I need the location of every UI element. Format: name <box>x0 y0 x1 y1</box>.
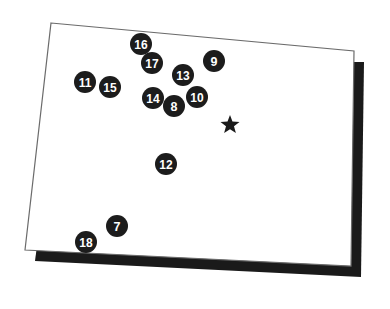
marker-13-label: 13 <box>176 69 190 83</box>
marker-18[interactable]: 18 <box>75 231 97 253</box>
marker-10-label: 10 <box>190 91 204 105</box>
marker-13[interactable]: 13 <box>172 64 194 86</box>
marker-7[interactable]: 7 <box>106 215 128 237</box>
marker-15[interactable]: 15 <box>99 76 121 98</box>
marker-14[interactable]: 14 <box>142 87 164 109</box>
marker-16[interactable]: 16 <box>130 33 152 55</box>
marker-11[interactable]: 11 <box>74 71 96 93</box>
marker-8[interactable]: 8 <box>163 95 185 117</box>
marker-11-label: 11 <box>79 76 92 90</box>
marker-15-label: 15 <box>103 81 117 95</box>
map-canvas: 169171311151410812718 <box>0 0 390 309</box>
marker-10[interactable]: 10 <box>186 86 208 108</box>
marker-14-label: 14 <box>146 92 160 106</box>
marker-9[interactable]: 9 <box>203 50 225 72</box>
marker-9-label: 9 <box>211 55 218 69</box>
marker-12[interactable]: 12 <box>155 153 177 175</box>
marker-12-label: 12 <box>159 158 173 172</box>
marker-7-label: 7 <box>114 220 121 234</box>
map-outline-shape <box>25 23 354 266</box>
marker-16-label: 16 <box>134 38 148 52</box>
marker-17[interactable]: 17 <box>141 52 163 74</box>
marker-17-label: 17 <box>145 57 159 71</box>
map-figure: 169171311151410812718 <box>0 0 390 309</box>
marker-18-label: 18 <box>79 236 93 250</box>
marker-8-label: 8 <box>171 100 178 114</box>
